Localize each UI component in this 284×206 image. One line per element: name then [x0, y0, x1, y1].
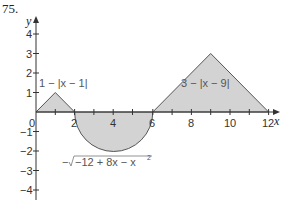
x-tick-8: 8	[188, 117, 194, 129]
y-axis-label: y	[25, 14, 32, 28]
y-tick-4: 4	[26, 28, 32, 40]
y-tick-m3: −3	[20, 165, 33, 177]
svg-text:−12 + 8x − x: −12 + 8x − x	[75, 156, 136, 168]
y-tick-m2: −2	[20, 145, 33, 157]
x-tick-12: 12	[262, 117, 274, 129]
svg-text:−: −	[62, 156, 68, 168]
y-tick-3: 3	[26, 48, 32, 60]
y-tick-m1: −1	[20, 126, 33, 138]
area-chart: y x 0 2 4 6 8 10 12 4 3 2 1 −1 −2 −3 −4 …	[0, 0, 284, 206]
x-tick-4: 4	[110, 117, 116, 129]
fn3-label: 3 − |x − 9|	[181, 77, 230, 89]
x-tick-10: 10	[224, 117, 236, 129]
fn1-label: 1 − |x − 1|	[39, 77, 88, 89]
svg-text:2: 2	[147, 154, 151, 161]
y-tick-m4: −4	[20, 184, 33, 196]
fn2-label: − −12 + 8x − x 2	[62, 154, 152, 168]
y-tick-1: 1	[26, 87, 32, 99]
x-tick-6: 6	[149, 117, 155, 129]
y-axis-arrow-icon	[33, 16, 39, 23]
y-tick-2: 2	[26, 67, 32, 79]
x-tick-2: 2	[71, 117, 77, 129]
